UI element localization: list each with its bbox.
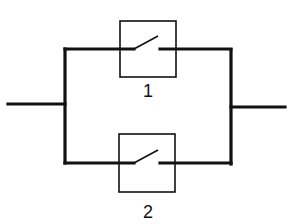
circuit-diagram: 1 2: [0, 0, 295, 224]
switch-1-label: 1: [143, 81, 153, 101]
switch-1: 1: [65, 21, 231, 101]
switch-2: 2: [65, 134, 231, 222]
switch-1-blade: [134, 36, 158, 49]
switch-2-blade: [134, 150, 158, 163]
switch-2-label: 2: [143, 202, 153, 222]
